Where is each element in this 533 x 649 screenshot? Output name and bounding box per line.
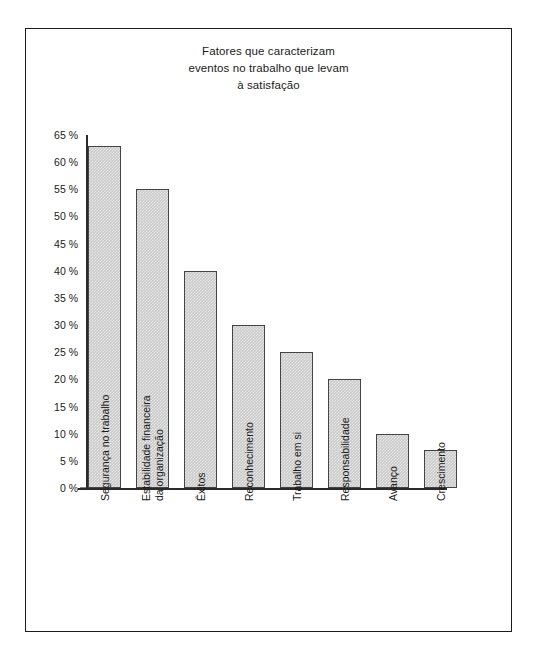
x-axis-label-line: Êxitos [195,472,208,501]
x-axis-label: Reconhecimento [243,422,256,501]
y-axis-tick-label: 20 % [54,373,78,385]
x-axis-label-line: Responsabilidade [339,418,352,501]
y-axis-tick-label: 50 % [54,210,78,222]
x-axis-label: Trabalho em si [291,432,304,501]
x-axis-label-line: Segurança no trabalho [99,395,112,501]
bar [184,271,217,488]
x-axis-label: Avanço [387,466,400,501]
y-axis-tick-label: 60 % [54,156,78,168]
y-axis-tick-label: 45 % [54,238,78,250]
y-axis-tick-label: 5 % [60,455,78,467]
chart-title: Fatores que caracterizam eventos no trab… [26,43,511,94]
chart-title-line-1: Fatores que caracterizam [26,43,511,60]
chart-title-line-3: à satisfação [26,77,511,94]
y-axis-tick-mark [80,487,87,488]
y-axis-tick-label: 0 % [60,482,78,494]
y-axis-tick-label: 15 % [54,401,78,413]
x-axis-label-line: Reconhecimento [243,422,256,501]
y-axis-tick-label: 30 % [54,319,78,331]
x-axis-label: Segurança no trabalho [99,395,112,501]
x-axis-label-line: Crescimento [435,442,448,501]
figure-frame: Fatores que caracterizam eventos no trab… [25,28,512,632]
x-axis-label-line: Estabilidade financeira [140,395,153,501]
y-axis-tick-label: 10 % [54,428,78,440]
x-axis-label: Responsabilidade [339,418,352,501]
x-axis-label-line: Avanço [387,466,400,501]
y-axis-tick-label: 25 % [54,346,78,358]
figure-page: Fatores que caracterizam eventos no trab… [0,0,533,649]
y-axis-tick-label: 65 % [54,129,78,141]
x-axis-label: Êxitos [195,472,208,501]
chart-title-line-2: eventos no trabalho que levam [26,60,511,77]
x-axis-label: Estabilidade financeirada organização [140,395,165,501]
x-axis-label: Crescimento [435,442,448,501]
x-axis-label-line: da organização [153,395,166,501]
y-axis-tick-label: 35 % [54,292,78,304]
plot-area: 65 %60 %55 %50 %45 %40 %35 %30 %25 %20 %… [87,135,447,488]
y-axis-tick-label: 40 % [54,265,78,277]
x-axis-label-line: Trabalho em si [291,432,304,501]
y-axis-tick-label: 55 % [54,183,78,195]
